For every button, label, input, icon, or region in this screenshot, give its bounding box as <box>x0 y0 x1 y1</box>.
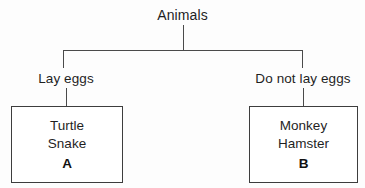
group-a-member-1: Turtle <box>50 118 84 134</box>
group-a-tag: A <box>62 156 72 172</box>
left-box-connector-line <box>66 88 67 106</box>
group-box-a: Turtle Snake A <box>11 106 123 183</box>
group-b-tag: B <box>299 156 309 172</box>
group-box-b: Monkey Hamster B <box>249 106 358 183</box>
root-connector-line <box>183 25 184 50</box>
root-node-label: Animals <box>0 8 365 22</box>
branch-label-do-not-lay-eggs: Do not lay eggs <box>255 72 350 86</box>
branch-label-lay-eggs: Lay eggs <box>38 72 94 86</box>
group-b-member-2: Hamster <box>278 136 329 152</box>
branch-horizontal-line <box>63 50 303 51</box>
group-a-member-2: Snake <box>48 136 86 152</box>
right-box-connector-line <box>303 88 304 106</box>
classification-tree-diagram: Animals Lay eggs Do not lay eggs Turtle … <box>0 0 365 188</box>
left-branch-drop-line <box>63 50 64 68</box>
right-branch-drop-line <box>302 50 303 68</box>
group-b-member-1: Monkey <box>280 118 327 134</box>
